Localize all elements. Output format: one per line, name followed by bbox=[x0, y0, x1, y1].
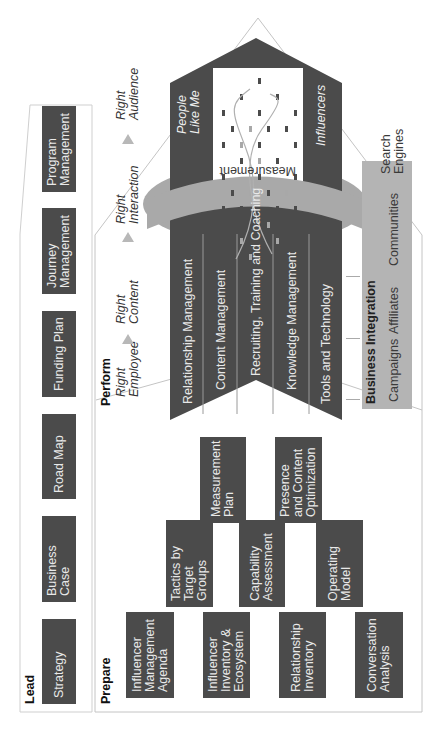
lead-item-label: Funding Plan bbox=[53, 317, 66, 391]
prepare-item-capability-assessment[interactable]: Capability Assessment bbox=[239, 520, 285, 607]
capability-tools-and-technology[interactable]: Tools and Technology bbox=[310, 224, 341, 414]
flow-right-audience: Right Audience bbox=[115, 68, 141, 120]
prepare-item-label: Influencer Management Agenda bbox=[131, 619, 170, 692]
prepare-item-label: Measurement Plan bbox=[210, 441, 236, 517]
flow-right-content: Right Content bbox=[115, 280, 141, 324]
flow-arrow-icon bbox=[122, 134, 134, 144]
prepare-item-label: Capability Assessment bbox=[249, 533, 275, 601]
lead-item-road-map[interactable]: Road Map bbox=[42, 414, 76, 499]
capability-label: Tools and Technology bbox=[319, 284, 333, 404]
prepare-item-label: Presence and Content Optimization bbox=[279, 448, 318, 517]
prepare-item-presence-content-optimization[interactable]: Presence and Content Optimization bbox=[275, 437, 322, 523]
prepare-item-operating-model[interactable]: Operating Model bbox=[316, 520, 363, 607]
measurement-label: Measurement bbox=[203, 146, 313, 196]
business-integration-title: Business Integration bbox=[364, 280, 378, 404]
lead-item-label: Business Case bbox=[46, 545, 72, 596]
lead-item-label: Journey Management bbox=[46, 215, 72, 288]
business-item-campaigns[interactable]: Campaigns bbox=[388, 339, 401, 402]
diagram-stage: Lead Strategy Business Case Road Map Fun… bbox=[0, 0, 437, 744]
flow-right-interaction: Right Interaction bbox=[115, 166, 141, 224]
prepare-item-measurement-plan[interactable]: Measurement Plan bbox=[200, 437, 246, 523]
audience-influencers: Influencers bbox=[314, 85, 328, 146]
lead-header: Lead bbox=[23, 675, 37, 704]
lead-item-funding-plan[interactable]: Funding Plan bbox=[42, 311, 76, 397]
lead-item-journey-management[interactable]: Journey Management bbox=[42, 208, 76, 294]
audience-people-like-me: People Like Me bbox=[176, 90, 202, 134]
business-item-search-engines[interactable]: Search Engines bbox=[380, 129, 406, 174]
prepare-item-conversation-analysis[interactable]: Conversation Analysis bbox=[355, 612, 403, 698]
lead-item-strategy[interactable]: Strategy bbox=[42, 619, 76, 704]
perform-header: Perform bbox=[99, 358, 113, 406]
capability-content-management[interactable]: Content Management bbox=[204, 224, 237, 400]
lead-item-label: Program Management bbox=[46, 113, 72, 186]
capability-relationship-management[interactable]: Relationship Management bbox=[172, 224, 203, 414]
prepare-header: Prepare bbox=[99, 657, 113, 704]
capability-label: Knowledge Management bbox=[285, 252, 299, 390]
capability-label: Relationship Management bbox=[181, 259, 195, 404]
prepare-item-relationship-inventory[interactable]: Relationship Inventory bbox=[279, 612, 326, 698]
capability-label: Content Management bbox=[214, 270, 228, 390]
flow-right-employee: Right Employee bbox=[115, 341, 141, 397]
flow-arrow-icon bbox=[122, 334, 134, 344]
prepare-item-influencer-management-agenda[interactable]: Influencer Management Agenda bbox=[126, 612, 174, 698]
connector-arrow-icon bbox=[346, 275, 360, 277]
business-item-communities[interactable]: Communities bbox=[388, 193, 401, 266]
business-item-affiliates[interactable]: Affiliates bbox=[388, 287, 401, 334]
flow-arrow-icon bbox=[122, 232, 134, 242]
connector-arrow-icon bbox=[346, 398, 360, 400]
prepare-item-label: Influencer Inventory & Ecosystem bbox=[207, 629, 246, 692]
lead-item-business-case[interactable]: Business Case bbox=[42, 516, 76, 602]
capability-knowledge-management[interactable]: Knowledge Management bbox=[274, 224, 309, 400]
capability-recruiting-training-coaching[interactable]: Recruiting, Training and Coaching bbox=[238, 186, 273, 386]
lead-item-program-management[interactable]: Program Management bbox=[42, 106, 76, 192]
prepare-item-influencer-inventory[interactable]: Influencer Inventory & Ecosystem bbox=[203, 612, 250, 698]
lead-item-label: Road Map bbox=[53, 435, 66, 493]
prepare-item-label: Operating Model bbox=[327, 546, 353, 601]
lead-item-label: Strategy bbox=[53, 651, 66, 698]
prepare-item-label: Relationship Inventory bbox=[290, 623, 316, 692]
prepare-item-label: Conversation Analysis bbox=[366, 618, 392, 692]
capability-label: Recruiting, Training and Coaching bbox=[249, 188, 263, 376]
prepare-item-label: Tactics by Target Groups bbox=[170, 546, 209, 601]
connector-arrow-icon bbox=[346, 337, 360, 339]
prepare-item-tactics-by-target-groups[interactable]: Tactics by Target Groups bbox=[166, 520, 213, 607]
